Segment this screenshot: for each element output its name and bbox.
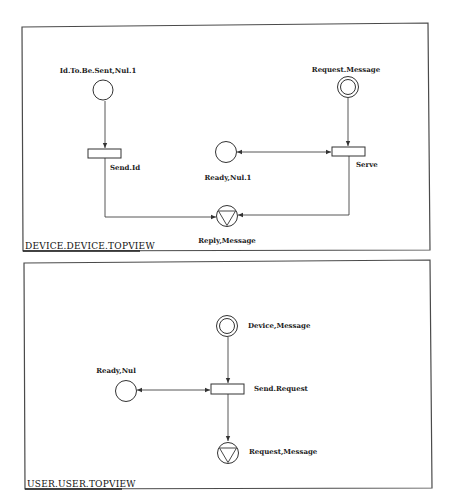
user-view-title: USER.USER.TOPVIEW [27, 479, 136, 489]
place-circle-icon [93, 80, 113, 100]
transition-bar-icon [332, 147, 365, 156]
place-label: Request,Message [249, 447, 318, 456]
device-view-title: DEVICE.DEVICE.TOPVIEW [25, 241, 155, 251]
transition-label: Send.Request [254, 384, 309, 393]
output-triangle-circle-icon [217, 206, 238, 227]
place-label: Device,Message [248, 321, 311, 330]
place-label: Ready,Nul [96, 366, 136, 375]
place-ready[interactable]: Ready,Nul.1 [205, 142, 252, 183]
transition-label: Send.Id [110, 163, 140, 172]
place-label: Request.Message [312, 65, 381, 74]
petri-net-diagram: DEVICE.DEVICE.TOPVIEW Id.To.Be.Sent,Nul.… [0, 0, 451, 490]
place-label: Reply,Message [198, 236, 256, 245]
transition-label: Serve [356, 160, 378, 169]
place-id-to-be-sent[interactable]: Id.To.Be.Sent,Nul.1 [60, 66, 137, 100]
arc-serve-to-replymessage [238, 156, 349, 215]
place-circle-icon [116, 381, 137, 402]
place-request-message-out[interactable]: Request,Message [218, 443, 318, 464]
place-circle-icon [216, 142, 237, 163]
transition-bar-icon [211, 384, 244, 394]
place-device-message[interactable]: Device,Message [217, 316, 311, 337]
place-label: Ready,Nul.1 [205, 173, 252, 182]
transition-send-id[interactable]: Send.Id [88, 149, 140, 172]
output-triangle-circle-icon [218, 443, 239, 464]
place-ready-nul[interactable]: Ready,Nul [96, 366, 136, 402]
transition-serve[interactable]: Serve [332, 147, 378, 169]
place-reply-message[interactable]: Reply,Message [198, 206, 256, 246]
user-topview: USER.USER.TOPVIEW Device,Message Ready,N… [24, 260, 432, 489]
place-label: Id.To.Be.Sent,Nul.1 [60, 66, 137, 75]
place-request-message[interactable]: Request.Message [312, 65, 381, 98]
transition-bar-icon [88, 149, 121, 158]
transition-send-request[interactable]: Send.Request [211, 384, 309, 394]
device-topview: DEVICE.DEVICE.TOPVIEW Id.To.Be.Sent,Nul.… [22, 23, 430, 251]
